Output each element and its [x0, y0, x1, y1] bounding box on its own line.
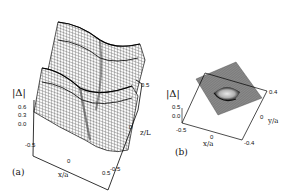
panel-b-ytick-0: -0.4: [244, 140, 254, 146]
panel-b-ztick-1: 0.0: [172, 113, 180, 119]
panel-b-ytick-2: 0.4: [269, 89, 277, 95]
panel-b-ytick-1: 0: [260, 114, 263, 120]
panel-b-tag: (b): [175, 148, 188, 157]
panel-b-surface: [0, 0, 296, 194]
panel-b-zlabel: |Δ|: [166, 89, 180, 99]
figure: |Δ| 0.6 0.3 0.0 -0.5 0 0.5 x/a -0.5 0 0.…: [0, 0, 296, 194]
panel-b-ztick-0: 0.5: [172, 104, 180, 110]
panel-b-xlabel: x/a: [203, 141, 213, 148]
panel-b-ylabel: y/a: [268, 118, 279, 125]
panel-b-xtick-0: -0.5: [176, 127, 186, 133]
